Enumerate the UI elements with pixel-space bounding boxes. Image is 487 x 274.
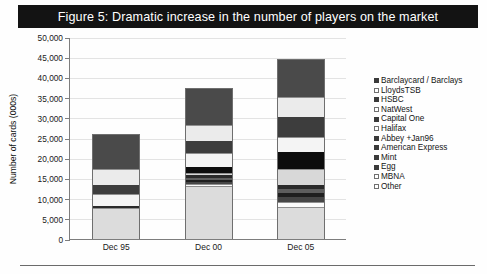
figure-title: Figure 5: Dramatic increase in the numbe… bbox=[58, 10, 438, 24]
legend-item[interactable]: Other bbox=[374, 182, 486, 192]
y-axis-tick bbox=[65, 58, 70, 59]
legend-item[interactable]: Halifax bbox=[374, 124, 486, 134]
y-axis-tick bbox=[65, 219, 70, 220]
bar-dec-95[interactable] bbox=[92, 134, 140, 239]
y-axis-tick bbox=[65, 98, 70, 99]
x-axis-label: Dec 05 bbox=[287, 242, 314, 252]
legend-swatch-icon bbox=[374, 78, 379, 83]
legend-label: Barclaycard / Barclays bbox=[381, 76, 462, 86]
legend-swatch-icon bbox=[374, 88, 379, 93]
legend-swatch-icon bbox=[374, 117, 379, 122]
y-axis-label: 5,000 bbox=[42, 215, 63, 225]
y-axis-label: 10,000 bbox=[38, 195, 63, 205]
legend-label: MBNA bbox=[381, 172, 405, 182]
legend-swatch-icon bbox=[374, 107, 379, 112]
legend-label: NatWest bbox=[381, 105, 412, 115]
legend-swatch-icon bbox=[374, 155, 379, 160]
bar-segment bbox=[186, 186, 232, 239]
y-axis-tick bbox=[65, 199, 70, 200]
bar-segment bbox=[278, 97, 324, 117]
legend-swatch-icon bbox=[374, 97, 379, 102]
y-axis-label: 35,000 bbox=[38, 94, 63, 104]
y-axis-label: 50,000 bbox=[38, 33, 63, 43]
legend-swatch-icon bbox=[374, 174, 379, 179]
legend-label: HSBC bbox=[381, 95, 404, 105]
bar-segment bbox=[278, 207, 324, 239]
y-axis-label: 40,000 bbox=[38, 73, 63, 83]
legend-swatch-icon bbox=[374, 184, 379, 189]
bar-dec-00[interactable] bbox=[185, 88, 233, 240]
bar-segment bbox=[186, 153, 232, 167]
y-axis-tick bbox=[65, 118, 70, 119]
legend-label: LloydsTSB bbox=[381, 86, 421, 96]
y-axis-tick bbox=[65, 179, 70, 180]
legend-item[interactable]: HSBC bbox=[374, 95, 486, 105]
y-axis-label: 20,000 bbox=[38, 154, 63, 164]
bar-segment bbox=[186, 89, 232, 125]
bar-segment bbox=[278, 60, 324, 97]
y-axis-tick bbox=[65, 139, 70, 140]
bar-segment bbox=[93, 208, 139, 239]
legend-item[interactable]: Abbey +Jan96 bbox=[374, 134, 486, 144]
bar-segment bbox=[278, 117, 324, 137]
legend-item[interactable]: LloydsTSB bbox=[374, 86, 486, 96]
legend-item[interactable]: Barclaycard / Barclays bbox=[374, 76, 486, 86]
bar-segment bbox=[93, 169, 139, 185]
bar-segment bbox=[186, 125, 232, 141]
legend-label: Abbey +Jan96 bbox=[381, 134, 434, 144]
legend-item[interactable]: MBNA bbox=[374, 172, 486, 182]
bar-segment bbox=[278, 152, 324, 169]
legend-label: Halifax bbox=[381, 124, 406, 134]
bar-segment bbox=[278, 137, 324, 152]
legend-item[interactable]: Mint bbox=[374, 153, 486, 163]
bar-segment bbox=[186, 141, 232, 153]
legend-label: Mint bbox=[381, 153, 396, 163]
y-axis-tick bbox=[65, 240, 70, 241]
y-axis-title: Number of cards (000s) bbox=[7, 38, 19, 240]
y-axis-label: 15,000 bbox=[38, 174, 63, 184]
legend-label: American Express bbox=[381, 143, 447, 153]
y-axis-label: 25,000 bbox=[38, 134, 63, 144]
legend-swatch-icon bbox=[374, 136, 379, 141]
y-axis-tick bbox=[65, 38, 70, 39]
y-axis-label: 45,000 bbox=[38, 53, 63, 63]
bar-dec-05[interactable] bbox=[277, 59, 325, 239]
legend-swatch-icon bbox=[374, 165, 379, 170]
chart-legend: Barclaycard / BarclaysLloydsTSBHSBCNatWe… bbox=[374, 76, 486, 191]
y-axis-tick bbox=[65, 78, 70, 79]
gridline bbox=[70, 38, 346, 39]
y-axis-tick bbox=[65, 159, 70, 160]
bar-segment bbox=[93, 135, 139, 169]
bar-segment bbox=[93, 185, 139, 194]
bar-segment bbox=[93, 194, 139, 206]
y-axis-label: 0 bbox=[58, 235, 63, 245]
legend-label: Capital One bbox=[381, 114, 424, 124]
footer-rule bbox=[20, 265, 475, 266]
legend-item[interactable]: American Express bbox=[374, 143, 486, 153]
x-axis-label: Dec 00 bbox=[195, 242, 222, 252]
legend-item[interactable]: NatWest bbox=[374, 105, 486, 115]
legend-label: Egg bbox=[381, 162, 396, 172]
figure-container: Figure 5: Dramatic increase in the numbe… bbox=[0, 0, 487, 274]
y-axis-title-label: Number of cards (000s) bbox=[8, 94, 18, 184]
plot-area: 05,00010,00015,00020,00025,00030,00035,0… bbox=[69, 38, 346, 240]
legend-swatch-icon bbox=[374, 145, 379, 150]
x-axis-label: Dec 95 bbox=[103, 242, 130, 252]
legend-label: Other bbox=[381, 182, 401, 192]
legend-item[interactable]: Capital One bbox=[374, 114, 486, 124]
bar-segment bbox=[278, 169, 324, 185]
legend-swatch-icon bbox=[374, 126, 379, 131]
y-axis-label: 30,000 bbox=[38, 114, 63, 124]
figure-title-bar: Figure 5: Dramatic increase in the numbe… bbox=[18, 5, 478, 28]
legend-item[interactable]: Egg bbox=[374, 162, 486, 172]
